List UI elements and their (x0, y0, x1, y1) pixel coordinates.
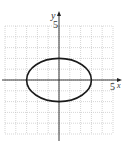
x-axis-label: x (117, 82, 121, 90)
graph-plot (0, 0, 123, 144)
axes (2, 11, 122, 141)
x-tick-label-5: 5 (110, 82, 115, 92)
y-tick-label-5: 5 (53, 20, 58, 30)
